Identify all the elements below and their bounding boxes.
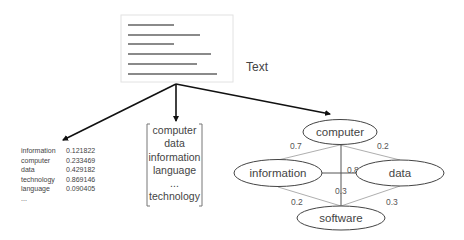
svg-text:information: information bbox=[250, 167, 307, 179]
word-cell: language bbox=[21, 184, 66, 194]
document-icon bbox=[121, 15, 233, 82]
value-cell: 0.233469 bbox=[66, 156, 95, 166]
node-software: software bbox=[297, 206, 385, 230]
diagram-canvas: 0.7 0.2 0.8 0.3 0.2 0.3 computer informa… bbox=[0, 0, 464, 240]
vocabulary-list: computer data information language ... t… bbox=[148, 124, 201, 204]
table-row: information 0.121822 bbox=[21, 146, 95, 156]
weight-computer-software: 0.3 bbox=[335, 186, 347, 196]
list-item: language bbox=[148, 164, 201, 177]
list-item: technology bbox=[148, 190, 201, 203]
list-item: computer bbox=[148, 124, 201, 137]
value-cell: 0.869146 bbox=[66, 175, 95, 185]
edge-computer-data bbox=[340, 145, 400, 160]
word-cell: computer bbox=[21, 156, 66, 166]
weight-computer-data: 0.2 bbox=[377, 141, 389, 151]
svg-text:software: software bbox=[319, 212, 362, 224]
document-label: Text bbox=[246, 60, 268, 74]
svg-text:computer: computer bbox=[316, 126, 364, 138]
word-frequency-table: information 0.121822 computer 0.233469 d… bbox=[21, 146, 95, 203]
value-cell: 0.429182 bbox=[66, 165, 95, 175]
node-data: data bbox=[356, 160, 444, 186]
weight-computer-information: 0.7 bbox=[290, 141, 302, 151]
word-cell: technology bbox=[21, 175, 66, 185]
table-ellipsis: ... bbox=[21, 194, 95, 204]
table-row: language 0.090405 bbox=[21, 184, 95, 194]
weight-information-software: 0.2 bbox=[291, 197, 303, 207]
list-item: information bbox=[148, 151, 201, 164]
table-row: data 0.429182 bbox=[21, 165, 95, 175]
table-row: computer 0.233469 bbox=[21, 156, 95, 166]
value-cell: 0.121822 bbox=[66, 146, 95, 156]
svg-text:data: data bbox=[389, 167, 412, 179]
edge-information-software bbox=[278, 187, 341, 206]
arrow-to-graph bbox=[176, 84, 330, 114]
node-information: information bbox=[234, 160, 322, 187]
node-computer: computer bbox=[303, 120, 377, 145]
weight-data-software: 0.3 bbox=[386, 197, 398, 207]
list-item: data bbox=[148, 137, 201, 150]
value-cell: 0.090405 bbox=[66, 184, 95, 194]
word-cell: information bbox=[21, 146, 66, 156]
edge-computer-information bbox=[278, 145, 340, 160]
list-item: ... bbox=[148, 177, 201, 190]
word-cell: data bbox=[21, 165, 66, 175]
table-row: technology 0.869146 bbox=[21, 175, 95, 185]
